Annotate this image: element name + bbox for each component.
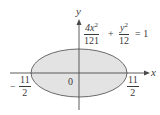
- left-intercept-sign: −: [10, 82, 16, 92]
- left-intercept-denominator: 2: [22, 87, 27, 98]
- x-axis-label: x: [151, 67, 156, 78]
- x-axis-arrow-icon: [144, 71, 150, 76]
- term1-denominator: 121: [84, 35, 99, 46]
- equation-term2: y2 12: [119, 23, 129, 46]
- term2-exponent: 2: [124, 21, 128, 29]
- left-intercept: 11 2: [19, 75, 31, 98]
- equals-one: = 1: [135, 29, 148, 39]
- right-intercept-numerator: 11: [127, 75, 139, 87]
- left-intercept-numerator: 11: [19, 75, 31, 87]
- equation-term1: 4x2 121: [84, 23, 99, 46]
- right-intercept: 11 2: [127, 75, 139, 98]
- term2-denominator: 12: [119, 35, 129, 46]
- origin-label: 0: [68, 77, 73, 87]
- y-axis-label: y: [76, 6, 81, 17]
- plus-sign: +: [108, 29, 114, 39]
- term1-exponent: 2: [94, 21, 98, 29]
- y-axis-arrow-icon: [77, 19, 82, 25]
- right-intercept-denominator: 2: [130, 87, 135, 98]
